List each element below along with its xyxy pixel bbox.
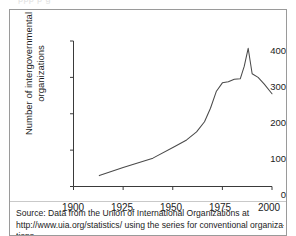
source-note: Source: Data from the Union of Internati… [16,208,284,236]
clipped-header-strip: ppp p g [0,0,296,9]
chart-svg [10,10,286,202]
source-note-line-1: Source: Data from the Union of Internati… [16,208,284,220]
source-note-line-3: tions. [16,231,284,236]
y-axis-ticks [70,41,74,187]
data-series-line [99,48,272,175]
note-divider [10,201,286,202]
source-note-line-2: http://www.uia.org/statistics/ using the… [16,220,284,232]
figure-frame: Number of intergovernmental organization… [9,9,287,236]
chart-plot-region: Number of intergovernmental organization… [10,10,286,200]
x-axis-ticks [74,187,273,191]
clipped-header-text: ppp p g [18,0,51,4]
